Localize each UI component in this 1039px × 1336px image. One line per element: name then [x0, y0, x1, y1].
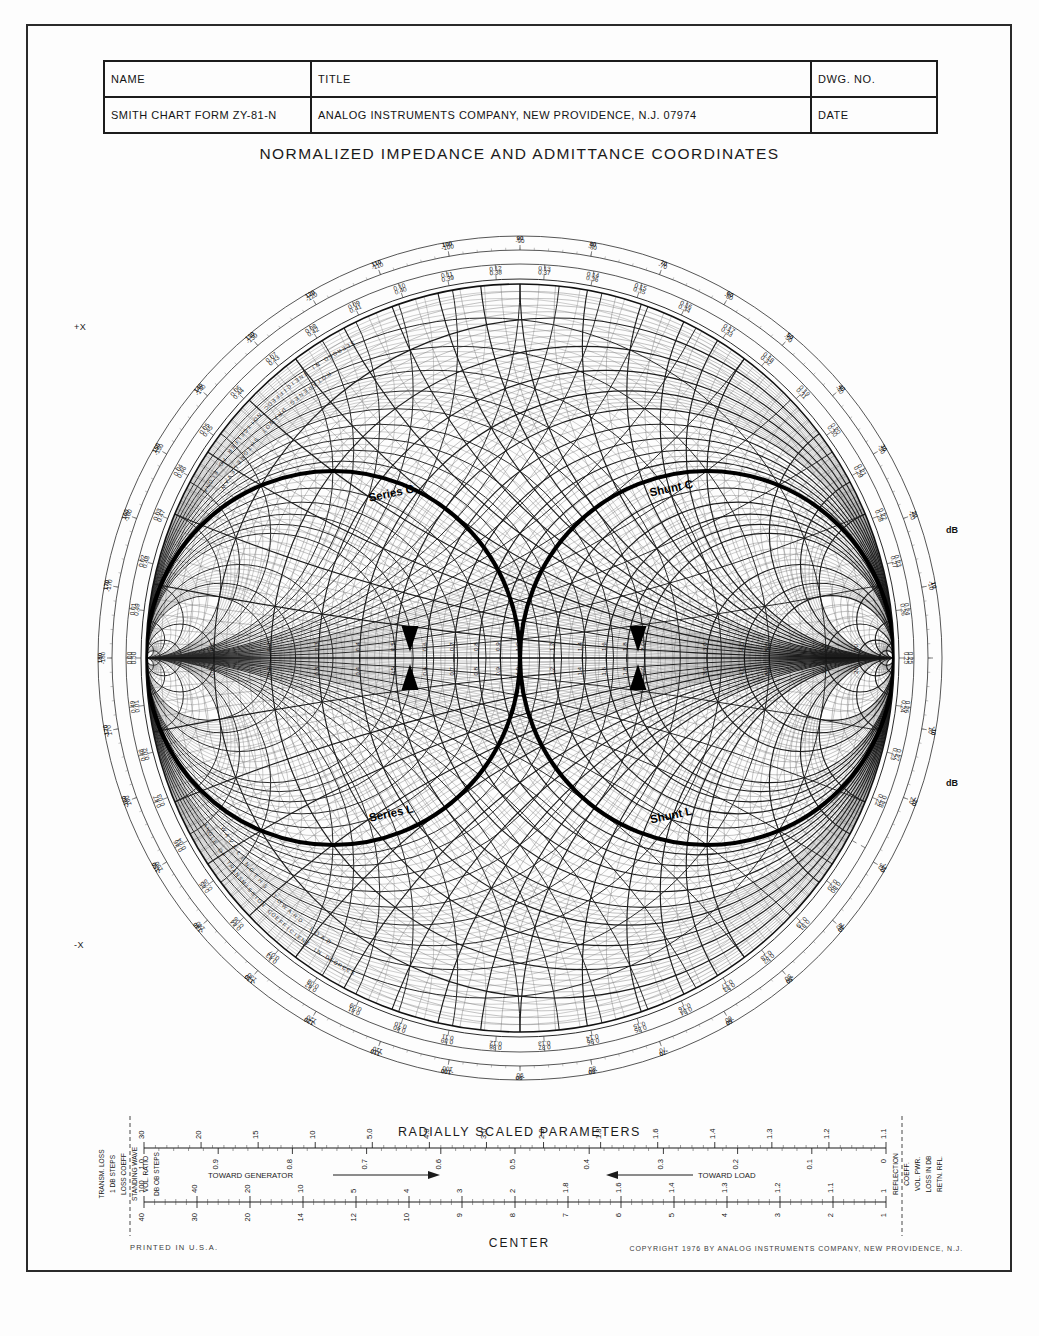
svg-text:1.8: 1.8 [621, 666, 628, 675]
svg-text:0.9: 0.9 [211, 1159, 220, 1170]
svg-text:0.7: 0.7 [448, 666, 455, 675]
field-title-label[interactable]: TITLE [310, 62, 810, 96]
svg-text:10: 10 [820, 644, 827, 651]
smith-chart-page: NAME TITLE DWG. NO. SMITH CHART FORM ZY-… [0, 0, 1039, 1336]
svg-text:0.6: 0.6 [421, 666, 428, 675]
svg-text:3.0: 3.0 [479, 1128, 488, 1139]
svg-text:14: 14 [296, 1213, 305, 1221]
svg-text:0.2: 0.2 [265, 642, 272, 651]
ruler-transmission-loss[interactable]: 302015105.04.03.02.01.81.61.41.31.21.11.… [137, 1128, 888, 1169]
svg-text:4.0: 4.0 [738, 642, 745, 651]
svg-text:90: 90 [516, 1072, 523, 1079]
svg-text:4.0: 4.0 [422, 1128, 431, 1139]
radially-scaled-parameters[interactable]: 302015105.04.03.02.01.81.61.41.31.21.11.… [98, 1112, 944, 1240]
svg-text:20: 20 [852, 644, 859, 651]
svg-text:100: 100 [441, 1065, 453, 1074]
company-name: ANALOG INSTRUMENTS COMPANY, NEW PROVIDEN… [318, 109, 697, 121]
svg-text:0.11: 0.11 [441, 1033, 455, 1042]
svg-text:0.49: 0.49 [132, 603, 141, 617]
dwg-no-label-text: DWG. NO. [818, 73, 875, 85]
svg-text:30: 30 [190, 1213, 199, 1221]
svg-text:9: 9 [455, 1213, 464, 1217]
scale-left-label-3: STANDING WAVE [131, 1146, 138, 1201]
svg-text:3: 3 [455, 1189, 464, 1193]
svg-text:1.4: 1.4 [667, 1182, 676, 1193]
svg-text:0.3: 0.3 [313, 666, 320, 675]
svg-text:8: 8 [508, 1213, 517, 1217]
field-dwg-no-label[interactable]: DWG. NO. [810, 62, 936, 96]
svg-text:1.2: 1.2 [548, 666, 555, 675]
svg-text:0.26: 0.26 [899, 603, 908, 617]
svg-text:6: 6 [614, 1213, 623, 1217]
svg-text:0.6: 0.6 [421, 642, 428, 651]
field-date-label[interactable]: DATE [810, 98, 936, 132]
svg-text:40: 40 [137, 1213, 146, 1221]
svg-text:0.5: 0.5 [389, 666, 396, 675]
scale-left-label-1: 1 DB STEPS [109, 1154, 116, 1193]
svg-text:0.3: 0.3 [656, 1159, 665, 1170]
svg-text:40: 40 [190, 1185, 199, 1193]
scale-right-label-0: REFLECTION [892, 1153, 899, 1195]
svg-text:0.8: 0.8 [285, 1159, 294, 1170]
svg-text:20: 20 [194, 1131, 203, 1139]
svg-text:3.0: 3.0 [701, 642, 708, 651]
svg-text:0.3: 0.3 [313, 642, 320, 651]
plus-x-axis-label: +X [74, 322, 86, 332]
svg-text:1.1: 1.1 [826, 1182, 835, 1193]
svg-text:30: 30 [137, 1131, 146, 1139]
svg-text:1.3: 1.3 [720, 1182, 729, 1193]
svg-text:15: 15 [251, 1131, 260, 1139]
scales-svg[interactable]: 302015105.04.03.02.01.81.61.41.31.21.11.… [98, 1112, 944, 1240]
svg-text:2.0: 2.0 [537, 1128, 546, 1139]
svg-text:10: 10 [308, 1131, 317, 1139]
page-title: NORMALIZED IMPEDANCE AND ADMITTANCE COOR… [0, 145, 1039, 163]
svg-text:0.8: 0.8 [472, 642, 479, 651]
field-name-label[interactable]: NAME [105, 62, 310, 96]
svg-text:0.13: 0.13 [537, 1040, 550, 1048]
svg-text:-180: -180 [99, 651, 106, 664]
svg-text:12: 12 [349, 1213, 358, 1221]
svg-text:0.1: 0.1 [805, 1159, 814, 1170]
svg-text:-90: -90 [516, 237, 526, 244]
scale-right-label-3: LOSS IN DB [925, 1155, 932, 1193]
ruler-standing-wave-ratio[interactable]: 10040201054321.81.61.41.31.21.1140302014… [137, 1180, 888, 1221]
svg-text:TOWARD LOAD: TOWARD LOAD [698, 1171, 756, 1180]
svg-text:1.2: 1.2 [822, 1128, 831, 1139]
scale-left-label-2: LOSS COEFF [120, 1153, 127, 1195]
svg-text:1.4: 1.4 [708, 1128, 717, 1139]
svg-text:0.39: 0.39 [441, 274, 455, 283]
svg-text:0.25: 0.25 [903, 652, 910, 665]
name-label-text: NAME [111, 73, 145, 85]
date-label-text: DATE [818, 109, 849, 121]
svg-text:5.0: 5.0 [365, 1128, 374, 1139]
svg-text:4.0: 4.0 [738, 666, 745, 675]
svg-text:1.2: 1.2 [548, 642, 555, 651]
center-label: CENTER [0, 1236, 1039, 1250]
svg-text:5: 5 [667, 1213, 676, 1217]
svg-text:0.2: 0.2 [731, 1159, 740, 1170]
svg-text:0.38: 0.38 [489, 268, 502, 276]
svg-text:0.2: 0.2 [265, 666, 272, 675]
smith-chart-graphic[interactable]: 0.000.500.010.490.020.480.030.470.040.46… [66, 180, 974, 1100]
svg-text:10: 10 [820, 666, 827, 673]
svg-text:1.2: 1.2 [773, 1182, 782, 1193]
svg-text:0.14: 0.14 [585, 1033, 599, 1042]
svg-text:0.12: 0.12 [489, 1040, 502, 1048]
title-block-header-row: NAME TITLE DWG. NO. [105, 62, 936, 96]
svg-text:0.24: 0.24 [899, 700, 908, 714]
field-form-value: SMITH CHART FORM ZY-81-N [105, 98, 310, 132]
annotation-series-c: Series C [367, 482, 415, 503]
svg-text:1.3: 1.3 [765, 1128, 774, 1139]
svg-text:-80: -80 [587, 243, 598, 252]
svg-text:1.8: 1.8 [621, 642, 628, 651]
svg-text:0.5: 0.5 [508, 1159, 517, 1170]
svg-text:0.9: 0.9 [494, 642, 501, 651]
svg-text:0.01: 0.01 [132, 699, 141, 713]
title-block: NAME TITLE DWG. NO. SMITH CHART FORM ZY-… [103, 60, 938, 134]
title-label-text: TITLE [318, 73, 351, 85]
svg-text:3.0: 3.0 [701, 666, 708, 675]
smith-chart-svg[interactable]: 0.000.500.010.490.020.480.030.470.040.46… [66, 180, 974, 1100]
svg-text:10: 10 [402, 1213, 411, 1221]
svg-text:0.37: 0.37 [538, 268, 551, 276]
svg-text:1.6: 1.6 [614, 1182, 623, 1193]
